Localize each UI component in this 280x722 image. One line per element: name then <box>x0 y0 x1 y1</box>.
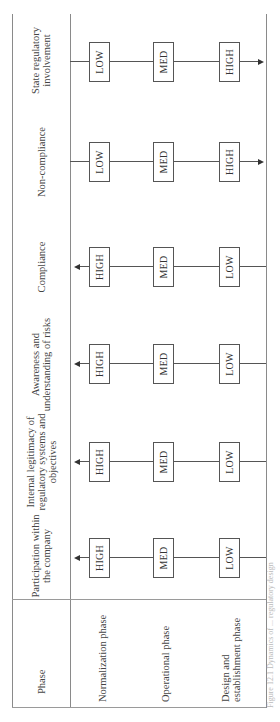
column-header: Participation within the company <box>16 512 66 600</box>
arrow-up-icon <box>74 361 80 367</box>
column-header: Compliance <box>16 217 66 317</box>
phase-header: Phase <box>16 586 66 708</box>
arrow-down-icon <box>258 159 264 165</box>
level-box: HIGH <box>219 42 240 82</box>
phase-design: Design and establishment phase <box>220 602 242 702</box>
arrow-up-icon <box>74 555 80 561</box>
rotated-table: Phase Participation within the companyHI… <box>0 0 280 722</box>
level-box: MED <box>153 42 174 82</box>
figure-caption: Figure 12.1 Dynamics of ... regulatory d… <box>266 562 275 708</box>
level-box: HIGH <box>89 538 110 578</box>
column-header: Internal legitimacy of regulatory system… <box>16 412 66 512</box>
level-box: MED <box>153 442 174 482</box>
level-box: HIGH <box>89 344 110 384</box>
top-rule <box>12 14 13 708</box>
header-rule <box>70 14 71 708</box>
column-header: Non-compliance <box>16 107 66 217</box>
column-header: State regulatory involvement <box>16 14 66 107</box>
level-box: HIGH <box>89 442 110 482</box>
phase-normalization: Normalization phase <box>97 615 108 702</box>
level-box: MED <box>153 142 174 182</box>
level-box: LOW <box>89 142 110 182</box>
arrow-up-icon <box>74 264 80 270</box>
level-box: HIGH <box>89 247 110 287</box>
level-box: MED <box>153 247 174 287</box>
phase-operational: Operational phase <box>160 626 171 702</box>
arrow-up-icon <box>74 459 80 465</box>
level-box: HIGH <box>219 142 240 182</box>
level-box: LOW <box>89 42 110 82</box>
level-box: LOW <box>219 247 240 287</box>
column-header: Awareness and understanding of risks <box>16 317 66 412</box>
level-box: LOW <box>219 538 240 578</box>
level-box: LOW <box>219 442 240 482</box>
level-box: MED <box>153 344 174 384</box>
arrow-down-icon <box>258 59 264 65</box>
level-box: LOW <box>219 344 240 384</box>
level-box: MED <box>153 538 174 578</box>
